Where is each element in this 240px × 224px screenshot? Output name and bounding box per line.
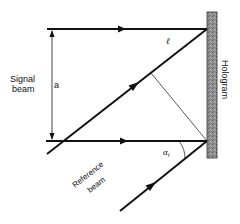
angle-alpha-r-label: αr xyxy=(163,147,171,158)
signal-beam-label-line1: Signal xyxy=(10,74,35,84)
path-length-label: ℓ xyxy=(166,36,170,46)
dimension-a-label: a xyxy=(54,80,59,90)
signal-beam-top-arrow-icon xyxy=(118,26,126,33)
wavefront-perpendicular-line xyxy=(151,73,207,141)
reference-beam-upper-ray xyxy=(47,29,207,154)
dimension-a-top-arrow-icon xyxy=(50,30,55,37)
dimension-a-bottom-arrow-icon xyxy=(50,133,55,140)
angle-arc xyxy=(179,141,185,159)
hologram-recording-diagram: Hologram a Signal beam ℓ αr Reference be… xyxy=(0,0,240,224)
hologram-plate xyxy=(207,12,217,158)
hologram-label: Hologram xyxy=(220,60,230,99)
signal-beam-bottom-arrow-icon xyxy=(120,138,128,145)
signal-beam-label-line2: beam xyxy=(12,84,35,94)
